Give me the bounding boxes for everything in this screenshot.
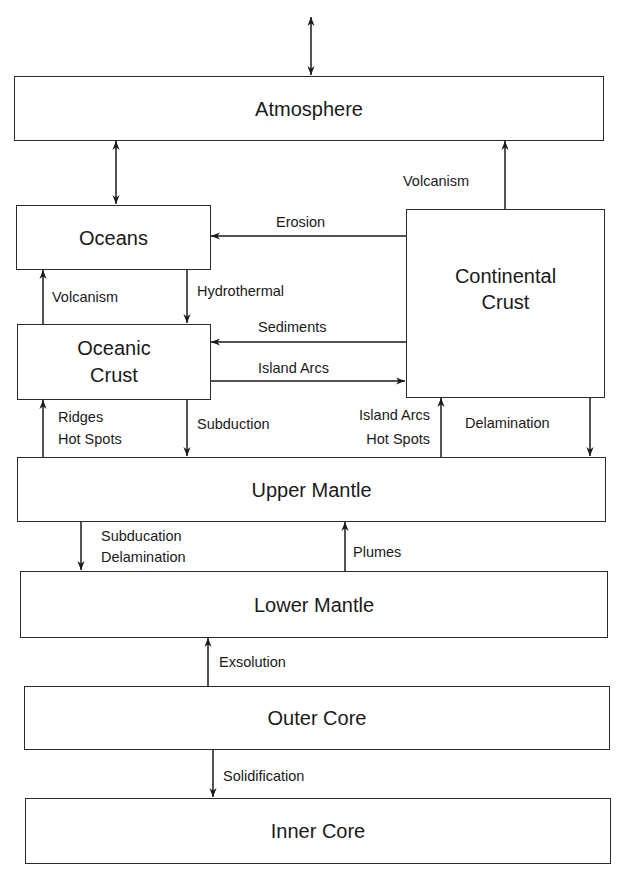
label-hot-spots-oceanic: Hot Spots bbox=[58, 430, 122, 449]
label-hydrothermal: Hydrothermal bbox=[197, 282, 284, 301]
label-island-arcs-mantle: Island Arcs bbox=[359, 406, 430, 425]
box-lower-mantle: Lower Mantle bbox=[20, 571, 608, 638]
box-oceans: Oceans bbox=[16, 205, 211, 270]
box-outer-core: Outer Core bbox=[24, 686, 610, 750]
box-upper-mantle: Upper Mantle bbox=[17, 457, 606, 522]
box-continental-crust: Continental Crust bbox=[406, 209, 605, 398]
label-delamination: Delamination bbox=[465, 414, 550, 433]
box-lower-mantle-label: Lower Mantle bbox=[254, 592, 374, 618]
label-subduction: Subduction bbox=[197, 415, 270, 434]
box-inner-core-label: Inner Core bbox=[271, 818, 366, 844]
label-delamination-lower: Delamination bbox=[101, 548, 186, 567]
box-oceanic-crust-label: Oceanic Crust bbox=[69, 335, 159, 389]
label-subducation: Subducation bbox=[101, 527, 182, 546]
label-erosion: Erosion bbox=[276, 213, 325, 232]
label-exsolution: Exsolution bbox=[219, 653, 286, 672]
label-sediments: Sediments bbox=[258, 318, 327, 337]
box-upper-mantle-label: Upper Mantle bbox=[251, 477, 371, 503]
label-plumes: Plumes bbox=[353, 543, 401, 562]
box-atmosphere-label: Atmosphere bbox=[255, 96, 363, 122]
box-inner-core: Inner Core bbox=[25, 798, 611, 864]
box-outer-core-label: Outer Core bbox=[268, 705, 367, 731]
label-island-arcs-to-continent: Island Arcs bbox=[258, 359, 329, 378]
box-oceanic-crust: Oceanic Crust bbox=[17, 324, 211, 400]
label-volcanism-continental: Volcanism bbox=[403, 172, 469, 191]
label-solidification: Solidification bbox=[223, 767, 304, 786]
label-hot-spots-continental: Hot Spots bbox=[366, 430, 430, 449]
label-ridges: Ridges bbox=[58, 408, 103, 427]
box-oceans-label: Oceans bbox=[79, 225, 148, 251]
box-continental-crust-label: Continental Crust bbox=[441, 263, 571, 315]
box-atmosphere: Atmosphere bbox=[14, 76, 604, 141]
label-volcanism-oceanic: Volcanism bbox=[52, 288, 118, 307]
